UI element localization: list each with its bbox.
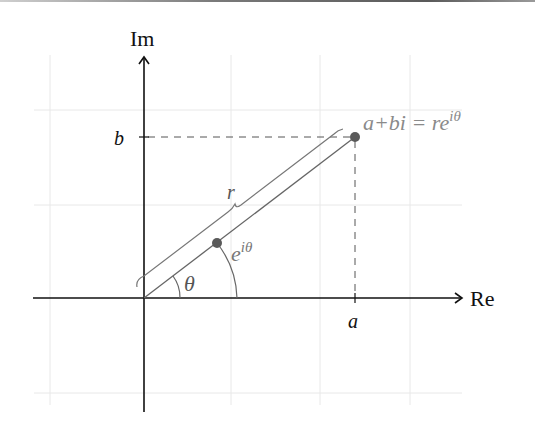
point-e-i-theta	[212, 238, 222, 248]
label-e-i-theta: eiθ	[231, 239, 253, 266]
label-r: r	[227, 181, 235, 203]
label-b: b	[114, 127, 124, 149]
grid	[34, 55, 462, 405]
radius-vector	[144, 137, 355, 298]
label-theta: θ	[184, 271, 195, 296]
point-a-plus-bi	[350, 132, 360, 142]
label-a: a	[348, 310, 358, 332]
theta-arc	[173, 276, 180, 298]
complex-plane-diagram: Im Re b a r θ eiθ a+bi = reiθ	[0, 0, 535, 434]
label-re: Re	[470, 286, 494, 311]
label-im: Im	[130, 26, 154, 51]
label-a-plus-bi: a+bi = reiθ	[363, 108, 461, 135]
